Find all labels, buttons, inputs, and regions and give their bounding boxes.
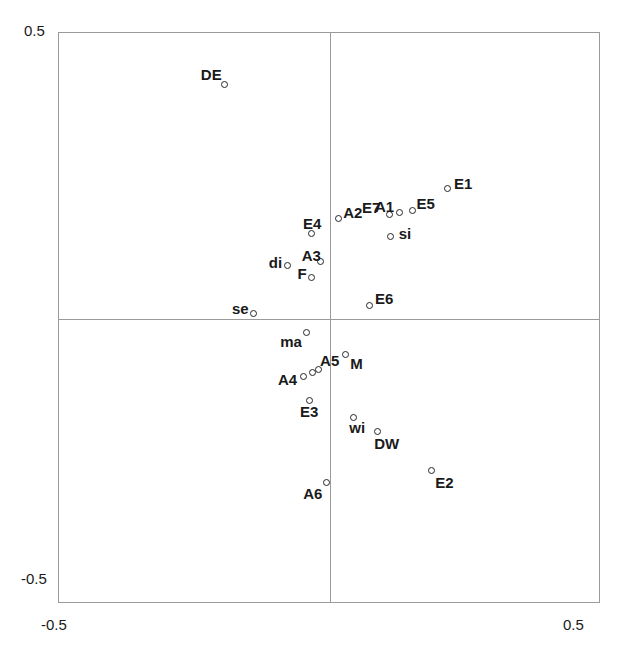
data-point-label: DE — [201, 67, 222, 82]
data-point-marker — [366, 302, 373, 309]
data-point-marker — [300, 373, 307, 380]
data-point-marker — [387, 233, 394, 240]
data-point-label: E4 — [303, 216, 321, 231]
data-point-label: F — [298, 266, 307, 281]
scatter-plot-figure: 0.5 -0.5 -0.5 0.5 DEE1E5A1E7A2siE4A3diFE… — [0, 0, 635, 658]
data-point-label: di — [269, 255, 282, 270]
data-point-marker — [284, 262, 291, 269]
data-point-label: E2 — [435, 475, 453, 490]
data-point-label: E1 — [454, 176, 472, 191]
data-point-marker — [342, 351, 349, 358]
y-axis-tick-max: 0.5 — [24, 22, 45, 39]
data-point-label: E6 — [375, 291, 393, 306]
data-point-marker — [221, 81, 228, 88]
horizontal-zero-axis-line — [59, 319, 599, 320]
x-axis-tick-max: 0.5 — [563, 616, 584, 633]
data-point-label: A6 — [303, 486, 322, 501]
data-point-label: DW — [374, 436, 399, 451]
data-point-marker — [250, 310, 257, 317]
data-point-marker — [303, 329, 310, 336]
data-point-label: A2 — [343, 205, 362, 220]
data-point-marker — [428, 467, 435, 474]
data-point-label: se — [232, 301, 249, 316]
y-axis-tick-min: -0.5 — [21, 570, 47, 587]
data-point-label: A5 — [320, 353, 339, 368]
data-point-marker — [335, 215, 342, 222]
data-point-marker — [374, 428, 381, 435]
plot-area: DEE1E5A1E7A2siE4A3diFE6semaMA5A4E3wiDWE2… — [58, 32, 600, 603]
data-point-label: E3 — [300, 404, 318, 419]
x-axis-tick-min: -0.5 — [41, 616, 67, 633]
data-point-marker — [309, 369, 316, 376]
data-point-marker — [386, 211, 393, 218]
data-point-label: A4 — [278, 372, 297, 387]
vertical-zero-axis-line — [330, 33, 331, 602]
data-point-label: si — [399, 226, 412, 241]
data-point-marker — [409, 207, 416, 214]
data-point-marker — [444, 185, 451, 192]
data-point-label: wi — [349, 420, 365, 435]
data-point-marker — [308, 274, 315, 281]
data-point-label: A3 — [302, 248, 321, 263]
data-point-label: E7 — [362, 200, 380, 215]
data-point-label: M — [350, 356, 363, 371]
data-point-label: E5 — [416, 196, 434, 211]
data-point-marker — [396, 209, 403, 216]
data-point-label: ma — [280, 334, 302, 349]
data-point-marker — [323, 479, 330, 486]
